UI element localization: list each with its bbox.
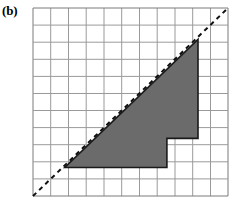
grid-plot [0, 0, 238, 205]
figure-panel: (b) [0, 0, 238, 205]
shaded-region [65, 39, 198, 167]
